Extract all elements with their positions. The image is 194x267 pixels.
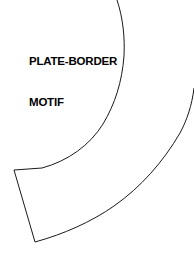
motif-label-line-1: PLATE-BORDER [29, 55, 117, 69]
motif-label: PLATE-BORDER MOTIF [29, 28, 117, 136]
motif-label-line-2: MOTIF [29, 96, 117, 110]
pattern-sheet: PLATE-BORDER MOTIF [0, 0, 194, 267]
